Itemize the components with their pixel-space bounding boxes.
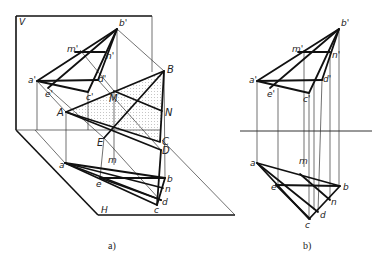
label-H: H <box>101 205 108 215</box>
caption-b: b) <box>303 240 311 252</box>
label-d-b: d <box>320 210 326 220</box>
label-a: a <box>59 160 65 170</box>
panel-b: b' m' n' a' e' d' c' a m e b n d c b) <box>240 18 372 252</box>
label-V: V <box>19 17 26 27</box>
label-M: M <box>109 93 118 104</box>
label-c-prime: c' <box>86 92 93 102</box>
label-m-prime: m' <box>67 44 78 54</box>
label-c-b: c <box>305 220 310 230</box>
label-e: e <box>96 179 102 189</box>
label-n-prime-b: n' <box>332 50 340 60</box>
label-b-prime: b' <box>119 18 127 28</box>
projection-lines-b <box>257 29 339 219</box>
label-c-prime-b: c' <box>303 94 310 104</box>
label-d-prime-b: d' <box>323 74 331 84</box>
label-a-prime-b: a' <box>249 75 257 85</box>
label-e-b: e <box>271 182 277 192</box>
label-n: n <box>165 184 171 194</box>
caption-a: a) <box>108 240 116 252</box>
label-m-prime-b: m' <box>292 44 303 54</box>
label-b-prime-b: b' <box>341 18 349 28</box>
label-d-prime: d' <box>98 74 106 84</box>
label-n-b: n <box>331 197 337 207</box>
label-e-prime: e' <box>45 89 53 99</box>
top-projection-a <box>65 163 165 205</box>
label-c: c <box>154 205 159 215</box>
label-N: N <box>165 107 173 118</box>
label-n-prime: n' <box>106 51 114 61</box>
label-A: A <box>56 107 64 118</box>
label-b-b: b <box>343 182 349 192</box>
label-B: B <box>167 64 174 75</box>
top-projection-b <box>257 163 340 219</box>
label-a-b: a <box>250 158 256 168</box>
label-b: b <box>167 174 173 184</box>
projection-diagram: V H b' m' n' a' e' d' c' B M N A D C E a… <box>0 0 376 266</box>
label-m-b: m <box>299 156 308 166</box>
label-a-prime: a' <box>28 75 36 85</box>
label-d: d <box>162 197 168 207</box>
label-C: C <box>162 136 169 147</box>
label-m: m <box>108 155 117 165</box>
label-E: E <box>97 137 104 148</box>
panel-a: V H b' m' n' a' e' d' c' B M N A D C E a… <box>16 16 235 252</box>
label-e-prime-b: e' <box>267 89 275 99</box>
